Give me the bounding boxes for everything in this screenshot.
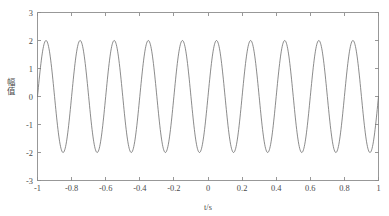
plot-area: -1-0.8-0.6-0.4-0.200.20.40.60.81 -3-2-10… bbox=[0, 0, 389, 216]
y-tick-label: -2 bbox=[26, 149, 33, 158]
y-tick-label: -3 bbox=[26, 177, 33, 186]
x-tick-label: 0 bbox=[206, 184, 210, 193]
x-tick-label: 1 bbox=[376, 184, 380, 193]
figure-canvas: -1-0.8-0.6-0.4-0.200.20.40.60.81 -3-2-10… bbox=[0, 0, 389, 216]
x-tick-label: -0.6 bbox=[99, 184, 112, 193]
y-axis-label: 幅值 bbox=[4, 78, 18, 97]
y-tick-label: 2 bbox=[29, 37, 33, 46]
x-tick-label: -0.8 bbox=[65, 184, 78, 193]
y-tick-labels: -3-2-10123 bbox=[26, 9, 33, 186]
y-tick-label: 3 bbox=[29, 9, 33, 18]
y-tick-label: 0 bbox=[29, 93, 33, 102]
y-tick-label: 1 bbox=[29, 65, 33, 74]
x-axis-label: t/s bbox=[204, 203, 212, 212]
x-tick-label: 0.8 bbox=[339, 184, 349, 193]
x-tick-label: -1 bbox=[34, 184, 41, 193]
x-tick-labels: -1-0.8-0.6-0.4-0.200.20.40.60.81 bbox=[34, 184, 381, 193]
waveform-line bbox=[38, 41, 379, 153]
x-tick-label: 0.6 bbox=[305, 184, 315, 193]
x-tick-label: -0.2 bbox=[167, 184, 180, 193]
x-tick-label: 0.4 bbox=[271, 184, 282, 193]
x-tick-label: 0.2 bbox=[237, 184, 247, 193]
y-tick-label: -1 bbox=[26, 121, 33, 130]
x-tick-label: -0.4 bbox=[133, 184, 147, 193]
